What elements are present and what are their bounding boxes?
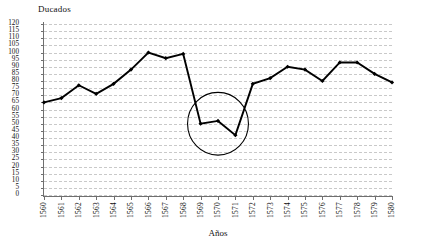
chart-container: Ducados 05101520253035404550556065707580…	[0, 0, 436, 249]
data-point-marker	[181, 52, 185, 56]
data-point-marker	[199, 122, 203, 126]
x-axis-title: Años	[0, 228, 436, 238]
data-point-marker	[42, 100, 46, 104]
data-series-line	[0, 0, 436, 249]
